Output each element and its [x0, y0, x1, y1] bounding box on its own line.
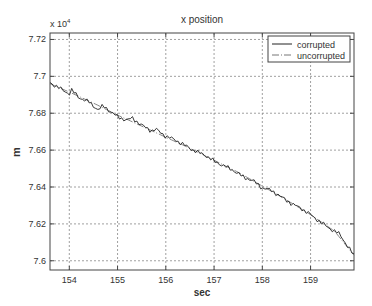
x-tick-label: 155 [110, 275, 125, 285]
chart-title: x position [181, 14, 223, 25]
y-tick-label: 7.66 [28, 145, 46, 155]
y-tick-label: 7.68 [28, 108, 46, 118]
chart-canvas: 1541551561571581597.67.627.647.667.687.7… [0, 0, 372, 306]
x-axis-label: sec [194, 287, 211, 298]
x-tick-label: 157 [207, 275, 222, 285]
y-multiplier-label: x 104 [50, 18, 71, 29]
x-tick-label: 159 [303, 275, 318, 285]
x-tick-label: 154 [62, 275, 77, 285]
axis-ticks: 1541551561571581597.67.627.647.667.687.7… [28, 33, 354, 285]
line-chart: 1541551561571581597.67.627.647.667.687.7… [0, 0, 372, 306]
y-tick-label: 7.62 [28, 219, 46, 229]
y-axis-label: m [10, 147, 22, 157]
y-tick-label: 7.6 [33, 256, 46, 266]
series-line-corrupted [50, 83, 354, 254]
data-series [50, 83, 354, 256]
x-tick-label: 158 [255, 275, 270, 285]
legend-label-uncorrupted: uncorrupted [297, 51, 345, 61]
grid-lines [50, 33, 354, 270]
plot-area-frame [50, 33, 354, 270]
x-tick-label: 156 [158, 275, 173, 285]
legend-label-corrupted: corrupted [297, 40, 335, 50]
y-tick-label: 7.7 [33, 71, 46, 81]
y-tick-label: 7.72 [28, 34, 46, 44]
y-tick-label: 7.64 [28, 182, 46, 192]
series-line-uncorrupted [50, 84, 354, 256]
legend: corrupted uncorrupted [268, 36, 350, 62]
